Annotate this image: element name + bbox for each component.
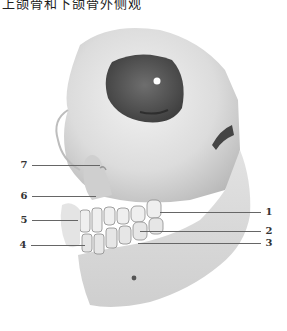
leader-line-5 [32, 220, 78, 221]
label-4: 4 [18, 240, 28, 250]
label-2: 2 [264, 226, 274, 236]
label-1: 1 [264, 207, 274, 217]
label-6: 6 [19, 191, 29, 201]
leader-line-3 [138, 243, 261, 244]
leader-line-4 [31, 245, 85, 246]
leader-line-6 [32, 196, 96, 197]
leader-line-1 [160, 212, 261, 213]
label-7: 7 [19, 160, 29, 170]
leader-line-7 [32, 165, 100, 166]
label-5: 5 [19, 215, 29, 225]
label-3: 3 [264, 238, 274, 248]
leader-line-2 [140, 231, 261, 232]
